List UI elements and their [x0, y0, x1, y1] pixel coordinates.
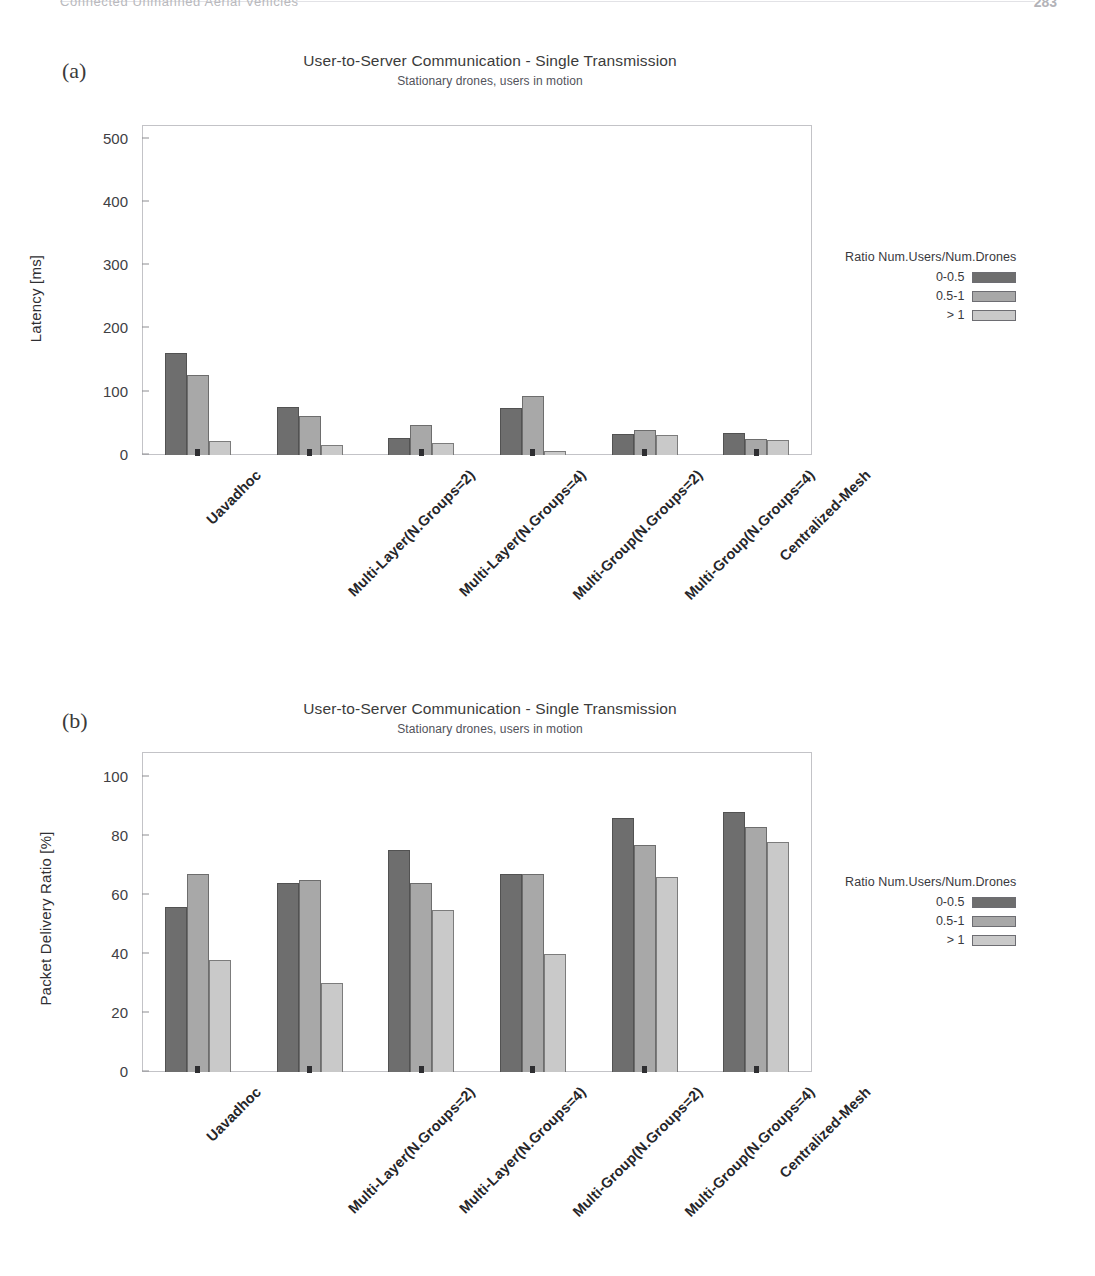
chart-a-title: User-to-Server Communication - Single Tr… [150, 52, 830, 70]
legend-item-label: 0-0.5 [922, 270, 964, 284]
bar [187, 874, 209, 1072]
panel-label-a: (a) [62, 58, 86, 84]
chart-b-legend: Ratio Num.Users/Num.Drones 0-0.50.5-1> 1 [845, 875, 1016, 952]
chart-a-subtitle: Stationary drones, users in motion [150, 74, 830, 88]
x-tick-mark [530, 1066, 535, 1073]
x-tick-label: Multi-Layer(N.Groups=2) [345, 467, 478, 600]
y-tick-mark [142, 1011, 149, 1012]
y-tick-label: 80 [68, 826, 128, 843]
legend-item[interactable]: 0.5-1 [845, 289, 1016, 303]
bar [656, 435, 678, 455]
bar [277, 407, 299, 455]
x-tick-label: Multi-Group(N.Groups=2) [569, 1084, 705, 1220]
x-tick-mark [642, 449, 647, 456]
legend-swatch-icon [972, 935, 1016, 946]
legend-item[interactable]: > 1 [845, 308, 1016, 322]
y-tick-label: 0 [68, 1063, 128, 1080]
bar [388, 850, 410, 1072]
x-tick-mark [530, 449, 535, 456]
y-tick-label: 0 [68, 446, 128, 463]
x-tick-mark [307, 1066, 312, 1073]
bar [544, 451, 566, 455]
legend-item[interactable]: 0-0.5 [845, 270, 1016, 284]
y-tick-label: 200 [68, 319, 128, 336]
bar [388, 438, 410, 455]
y-tick-label: 400 [68, 192, 128, 209]
chart-a-legend: Ratio Num.Users/Num.Drones 0-0.50.5-1> 1 [845, 250, 1016, 327]
bar [723, 812, 745, 1072]
y-tick-mark [142, 327, 149, 328]
y-tick-label: 300 [68, 256, 128, 273]
legend-item-label: 0.5-1 [922, 914, 964, 928]
page-number: 283 [1034, 0, 1057, 10]
bar [165, 353, 187, 455]
chart-b-plot-area: 020406080100 UavadhocMulti-Layer(N.Group… [142, 752, 812, 1072]
bar [767, 842, 789, 1072]
x-tick-mark [307, 449, 312, 456]
chart-b-title: User-to-Server Communication - Single Tr… [150, 700, 830, 718]
x-tick-mark [419, 449, 424, 456]
legend-swatch-icon [972, 916, 1016, 927]
y-tick-mark [142, 1071, 149, 1072]
bar [187, 375, 209, 455]
bar [299, 880, 321, 1072]
chart-b-bars [142, 753, 812, 1072]
y-tick-mark [142, 834, 149, 835]
x-tick-label: Multi-Layer(N.Groups=4) [456, 1084, 589, 1217]
bar [209, 441, 231, 455]
bar [656, 877, 678, 1072]
bar [634, 845, 656, 1072]
y-tick-label: 20 [68, 1003, 128, 1020]
bar [165, 907, 187, 1072]
bar [612, 434, 634, 455]
y-tick-mark [142, 893, 149, 894]
legend-swatch-icon [972, 310, 1016, 321]
y-tick-mark [142, 137, 149, 138]
y-tick-label: 60 [68, 885, 128, 902]
bar [321, 983, 343, 1072]
y-tick-label: 40 [68, 944, 128, 961]
x-tick-label: Uavadhoc [203, 1084, 264, 1145]
legend-item-label: 0.5-1 [922, 289, 964, 303]
running-head: Connected Unmanned Aerial Vehicles [60, 0, 299, 9]
bar [745, 827, 767, 1072]
legend-item[interactable]: 0-0.5 [845, 895, 1016, 909]
x-tick-mark [754, 1066, 759, 1073]
bar [432, 910, 454, 1072]
chart-a-bars [142, 126, 812, 455]
y-tick-mark [142, 390, 149, 391]
page-canvas: Connected Unmanned Aerial Vehicles 283 (… [0, 0, 1095, 1276]
bar [500, 408, 522, 455]
legend-item-label: > 1 [922, 933, 964, 947]
figure-a: (a) User-to-Server Communication - Singl… [0, 40, 1095, 660]
bar [522, 396, 544, 455]
chart-b-subtitle: Stationary drones, users in motion [150, 722, 830, 736]
x-tick-mark [642, 1066, 647, 1073]
bar [522, 874, 544, 1072]
x-tick-mark [754, 449, 759, 456]
legend-swatch-icon [972, 272, 1016, 283]
x-tick-label: Multi-Layer(N.Groups=2) [345, 1084, 478, 1217]
x-tick-label: Multi-Group(N.Groups=2) [569, 467, 705, 603]
bar [432, 443, 454, 455]
chart-a-y-axis-title: Latency [ms] [27, 255, 44, 342]
bar [767, 440, 789, 455]
x-tick-mark [195, 449, 200, 456]
y-tick-label: 100 [68, 767, 128, 784]
legend-swatch-icon [972, 897, 1016, 908]
chart-a-titles: User-to-Server Communication - Single Tr… [150, 52, 830, 88]
bar [410, 883, 432, 1072]
legend-item[interactable]: > 1 [845, 933, 1016, 947]
figure-b: (b) User-to-Server Communication - Singl… [0, 690, 1095, 1270]
x-tick-label: Uavadhoc [203, 467, 264, 528]
bar [500, 874, 522, 1072]
x-tick-label: Multi-Layer(N.Groups=4) [456, 467, 589, 600]
y-tick-mark [142, 775, 149, 776]
bar [612, 818, 634, 1072]
bar [544, 954, 566, 1072]
chart-b-y-axis-title: Packet Delivery Ratio [%] [37, 831, 54, 1005]
y-tick-mark [142, 264, 149, 265]
legend-item-label: > 1 [922, 308, 964, 322]
legend-item[interactable]: 0.5-1 [845, 914, 1016, 928]
y-tick-mark [142, 200, 149, 201]
